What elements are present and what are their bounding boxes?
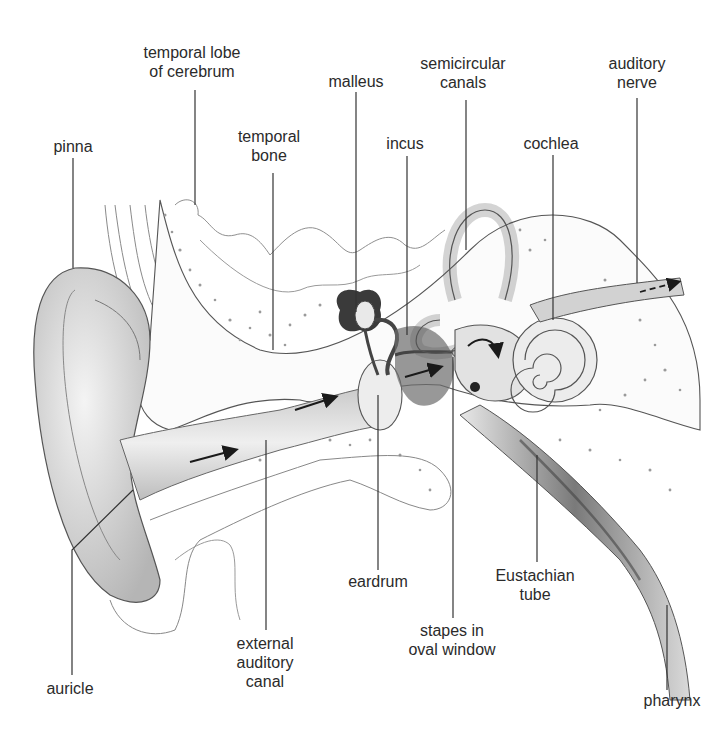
label-pharynx: pharynx <box>644 691 701 710</box>
label-stapes: stapes in oval window <box>408 621 495 659</box>
label-pinna: pinna <box>53 137 92 156</box>
label-auricle: auricle <box>46 679 93 698</box>
label-auditory-nerve: auditory nerve <box>609 54 666 92</box>
temporal-lobe-folds <box>175 200 445 255</box>
label-semicircular-canals: semicircular canals <box>420 54 505 92</box>
label-external-canal: external auditory canal <box>237 634 294 691</box>
label-temporal-lobe: temporal lobe of cerebrum <box>144 43 241 81</box>
label-eustachian-tube: Eustachian tube <box>495 566 574 604</box>
malleus-shape <box>355 301 375 329</box>
label-eardrum: eardrum <box>348 572 408 591</box>
ear-diagram: temporal lobe of cerebrum malleus semici… <box>0 0 720 745</box>
label-temporal-bone: temporal bone <box>238 127 300 165</box>
label-malleus: malleus <box>328 72 383 91</box>
ear-illustration <box>0 0 720 745</box>
label-cochlea: cochlea <box>523 134 578 153</box>
label-incus: incus <box>386 134 423 153</box>
